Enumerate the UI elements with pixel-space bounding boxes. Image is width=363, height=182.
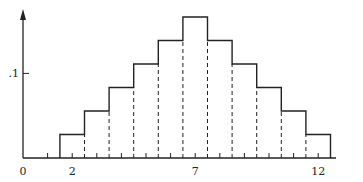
- y-tick-label: .1: [9, 67, 20, 80]
- y-axis-arrow-icon: [20, 9, 26, 20]
- probability-histogram: .102712: [0, 0, 363, 182]
- histogram-outline: [60, 17, 331, 158]
- x-tick-label: 12: [311, 165, 325, 178]
- x-tick-label: 2: [69, 165, 76, 178]
- x-tick-label: 7: [192, 165, 199, 178]
- x-tick-label: 0: [20, 165, 27, 178]
